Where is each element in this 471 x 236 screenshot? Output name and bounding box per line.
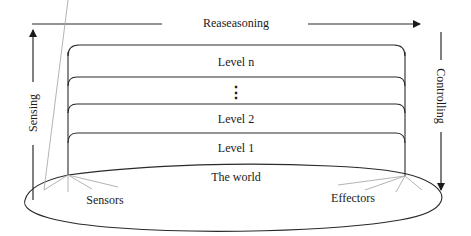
world-label: The world: [211, 170, 261, 184]
controlling-label: Controlling: [434, 68, 448, 123]
controlling-arrow: Controlling: [434, 32, 448, 190]
layered-architecture-diagram: Reaseasoning Sensing Controlling Level n…: [0, 0, 471, 236]
sensing-label: Sensing: [26, 94, 40, 132]
sensors-fan: [44, 0, 118, 192]
sensing-arrow: Sensing: [26, 30, 40, 200]
reasoning-arrow: Reaseasoning: [32, 16, 420, 30]
level-1-label: Level 1: [218, 141, 254, 155]
sensors-label: Sensors: [86, 193, 124, 207]
effectors-label: Effectors: [331, 191, 375, 205]
level-ellipsis-label: ⋮: [228, 84, 244, 101]
effectors-fan: [338, 176, 422, 192]
reasoning-label: Reaseasoning: [203, 16, 269, 30]
level-2-label: Level 2: [218, 112, 254, 126]
level-n-label: Level n: [218, 55, 254, 69]
